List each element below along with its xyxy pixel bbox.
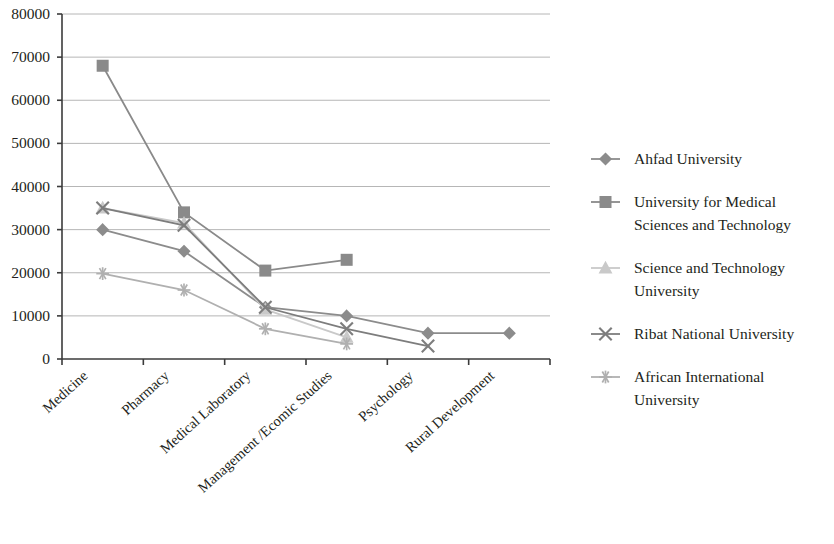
legend-label: Ahfad University xyxy=(634,150,742,167)
diamond-marker-icon xyxy=(97,224,108,235)
square-marker-icon xyxy=(260,265,270,275)
series-line xyxy=(103,274,347,344)
y-tick-label: 40000 xyxy=(11,178,50,195)
y-tick-label: 70000 xyxy=(11,48,50,65)
y-tick-label: 60000 xyxy=(11,91,50,108)
legend-label: Ribat National University xyxy=(634,325,794,342)
x-axis-ticks-group xyxy=(62,359,550,365)
diamond-marker-icon xyxy=(600,154,611,165)
diamond-marker-icon xyxy=(423,328,434,339)
y-tick-label: 80000 xyxy=(11,5,50,22)
y-tick-label: 10000 xyxy=(11,307,50,324)
x-tick-label: Pharmacy xyxy=(118,367,172,418)
diamond-marker-icon xyxy=(341,310,352,321)
legend: Ahfad UniversityUniversity for MedicalSc… xyxy=(591,150,794,408)
x-tick-label: Medicine xyxy=(39,367,90,416)
x-tick-label: Psychology xyxy=(355,367,417,425)
series-university-for-medical-sciences-and-technology xyxy=(97,61,351,276)
data-series-group xyxy=(96,61,514,353)
y-tick-label: 20000 xyxy=(11,264,50,281)
square-marker-icon xyxy=(97,61,107,71)
legend-label: African International xyxy=(634,368,764,385)
x-tick-label: Rural Development xyxy=(402,367,497,455)
series-ahfad-university xyxy=(97,224,514,338)
y-tick-label: 30000 xyxy=(11,221,50,238)
legend-label: University xyxy=(634,282,700,299)
x-tick-label: Management /Ecomic Studies xyxy=(195,367,335,496)
legend-label: University for Medical xyxy=(634,193,776,210)
diamond-marker-icon xyxy=(179,246,190,257)
chart-svg: 8000070000600005000040000300002000010000… xyxy=(0,0,834,544)
legend-label: University xyxy=(634,391,700,408)
legend-label: Sciences and Technology xyxy=(634,216,791,233)
x-axis-labels-group: MedicinePharmacyMedical LaboratoryManage… xyxy=(39,367,497,496)
y-tick-label: 50000 xyxy=(11,134,50,151)
legend-label: Science and Technology xyxy=(634,259,785,276)
square-marker-icon xyxy=(341,255,351,265)
series-science-and-technology-university xyxy=(97,202,352,342)
square-marker-icon xyxy=(600,197,610,207)
gridlines-group xyxy=(62,14,550,316)
diamond-marker-icon xyxy=(504,328,515,339)
line-chart: 8000070000600005000040000300002000010000… xyxy=(0,0,834,544)
y-axis-labels-group: 8000070000600005000040000300002000010000… xyxy=(11,5,50,367)
y-tick-label: 0 xyxy=(42,350,50,367)
